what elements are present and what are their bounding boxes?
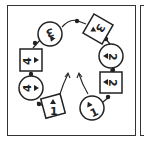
- node-number: 2: [106, 53, 119, 61]
- node-circle-3[interactable]: 3: [38, 22, 62, 46]
- node-diamond-1[interactable]: 1: [41, 94, 65, 118]
- node-square-4[interactable]: 4: [20, 49, 42, 71]
- node-circle-2[interactable]: 2: [99, 44, 123, 68]
- node-diamond-3[interactable]: 3: [83, 14, 113, 44]
- connector-dot: [37, 102, 41, 106]
- node-number: 2: [106, 79, 119, 87]
- node-number: 4: [21, 84, 34, 92]
- node-circle-4[interactable]: 4: [19, 76, 43, 100]
- node-circle-1[interactable]: 1: [80, 96, 104, 120]
- connector-dot: [33, 41, 37, 45]
- center-arrows: [60, 73, 88, 94]
- connector-dot: [75, 19, 79, 23]
- connector-dot: [106, 95, 110, 99]
- curved-arrow-up-icon: [77, 73, 88, 94]
- cycle-diagram: 3 3 2 2 1 1 4 4: [0, 0, 144, 141]
- node-number: 4: [21, 57, 34, 65]
- curved-arrow-up-icon: [60, 73, 70, 94]
- node-square-2[interactable]: 2: [100, 72, 122, 93]
- node-number: 1: [50, 105, 58, 118]
